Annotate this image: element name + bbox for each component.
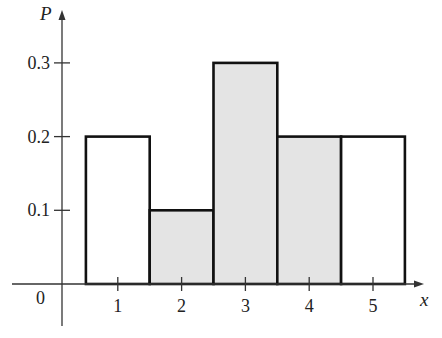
probability-histogram: 123450.10.20.3 P x 0 <box>0 0 442 338</box>
bar-5 <box>341 137 405 284</box>
y-tick-label: 0.1 <box>28 200 51 220</box>
x-tick-label: 3 <box>241 296 250 316</box>
bar-2 <box>150 210 214 284</box>
x-tick-label: 4 <box>305 296 314 316</box>
bar-4 <box>277 137 341 284</box>
x-tick-label: 2 <box>177 296 186 316</box>
bar-1 <box>86 137 150 284</box>
origin-label: 0 <box>36 288 45 308</box>
bar-3 <box>214 63 278 284</box>
x-tick-label: 5 <box>369 296 378 316</box>
y-tick-label: 0.2 <box>28 127 51 147</box>
y-axis-label: P <box>39 3 52 24</box>
x-axis-label: x <box>419 289 429 310</box>
y-tick-label: 0.3 <box>28 53 51 73</box>
y-axis-arrow <box>59 10 66 20</box>
x-axis-arrow <box>414 281 424 288</box>
x-tick-label: 1 <box>113 296 122 316</box>
